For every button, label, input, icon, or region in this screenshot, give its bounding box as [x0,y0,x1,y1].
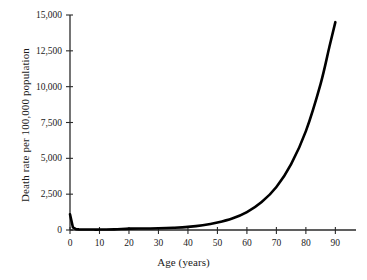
y-axis-title: Death rate per 100,000 population [19,5,31,245]
x-tick-label: 40 [183,238,193,248]
y-tick-label: 15,000 [8,10,62,20]
x-tick-label: 10 [95,238,105,248]
x-tick-label: 80 [301,238,311,248]
y-tick-label: 0 [8,225,62,235]
y-tick-label: 5,000 [8,153,62,163]
x-tick-label: 20 [124,238,134,248]
death-rate-by-age-chart: 02,5005,0007,50010,00012,50015,000 01020… [0,0,367,280]
axis-lines [70,15,356,230]
y-tick-label: 7,500 [8,118,62,128]
x-tick-label: 0 [68,238,73,248]
x-tick-label: 90 [331,238,341,248]
y-tick-label: 12,500 [8,46,62,56]
x-tick-label: 70 [272,238,282,248]
y-tick-label: 10,000 [8,82,62,92]
x-axis-title: Age (years) [0,256,367,268]
x-tick-label: 50 [213,238,223,248]
death-rate-curve [70,22,335,229]
y-tick-label: 2,500 [8,189,62,199]
x-tick-label: 30 [154,238,164,248]
x-tick-label: 60 [242,238,252,248]
